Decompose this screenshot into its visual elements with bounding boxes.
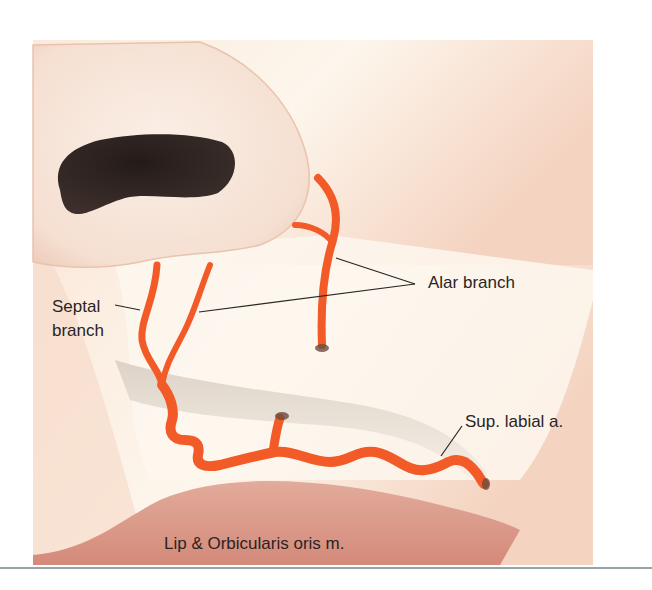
lip-label: Lip & Orbicularis oris m. — [164, 533, 344, 555]
sup-labial-artery-label: Sup. labial a. — [465, 411, 563, 433]
septal-branch-label-line2: branch — [52, 320, 104, 342]
septal-branch-label-line1: Septal — [52, 296, 100, 318]
bottom-divider — [0, 567, 652, 569]
anatomy-figure: Alar branch Septal branch Sup. labial a.… — [0, 0, 652, 590]
alar-branch-label: Alar branch — [428, 272, 515, 294]
figure-illustration — [0, 0, 652, 590]
